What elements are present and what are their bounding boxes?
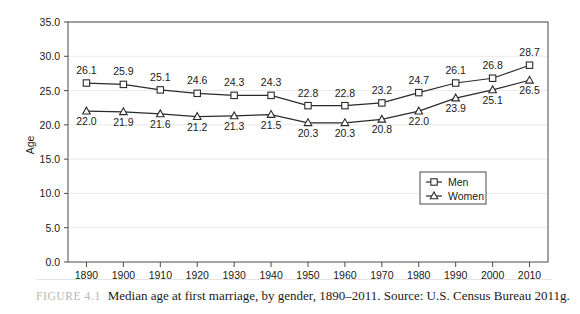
y-tick-label: 5.0 [45, 222, 60, 234]
data-point-label: 20.3 [335, 127, 356, 139]
data-point-label: 22.0 [76, 115, 97, 127]
data-point-label: 25.9 [113, 65, 134, 77]
y-axis-title: Age [24, 136, 36, 155]
figure-container: 0.05.010.015.020.025.030.035.0Age1890190… [0, 0, 580, 314]
plot-frame [68, 22, 548, 262]
legend-marker-square-icon [431, 179, 437, 185]
data-point-marker [452, 80, 458, 86]
y-tick-label: 15.0 [40, 153, 61, 165]
data-point-marker [268, 92, 274, 98]
y-tick-label: 20.0 [40, 119, 61, 131]
legend-label: Women [448, 190, 484, 202]
data-point-label: 24.3 [261, 76, 282, 88]
data-point-marker [489, 75, 495, 81]
data-point-label: 24.6 [187, 74, 208, 86]
y-tick-label: 35.0 [40, 16, 61, 28]
data-point-label: 22.0 [409, 115, 430, 127]
data-point-label: 23.2 [372, 84, 393, 96]
data-point-label: 21.5 [261, 119, 282, 131]
figure-label: FIGURE 4.1 [36, 290, 101, 302]
figure-caption: FIGURE 4.1 Median age at first marriage,… [36, 288, 552, 304]
data-point-label: 25.1 [482, 94, 503, 106]
data-point-marker [416, 89, 422, 95]
y-axis: 0.05.010.015.020.025.030.035.0 [40, 16, 68, 268]
data-point-label: 26.5 [519, 84, 540, 96]
data-point-label: 20.8 [372, 123, 393, 135]
data-point-marker [526, 76, 534, 83]
data-point-label: 25.1 [150, 71, 171, 83]
data-point-marker [342, 102, 348, 108]
legend-label: Men [448, 176, 469, 188]
figure-caption-text: Median age at first marriage, by gender,… [108, 288, 570, 304]
data-point-label: 24.3 [224, 76, 245, 88]
y-tick-label: 0.0 [45, 256, 60, 268]
data-point-marker [83, 107, 91, 114]
data-point-marker [526, 62, 532, 68]
data-point-label: 21.2 [187, 121, 208, 133]
data-point-marker [231, 92, 237, 98]
data-point-marker [267, 111, 275, 118]
data-point-label: 28.7 [519, 46, 540, 58]
y-tick-label: 30.0 [40, 50, 61, 62]
data-point-label: 24.7 [409, 74, 430, 86]
data-point-label: 26.8 [482, 59, 503, 71]
data-point-marker [379, 100, 385, 106]
series-men: 26.125.925.124.624.324.322.822.823.224.7… [76, 46, 540, 109]
legend: MenWomen [420, 172, 486, 204]
data-point-label: 23.9 [445, 102, 466, 114]
data-point-label: 22.8 [298, 87, 319, 99]
caption-separator [36, 279, 552, 280]
data-point-label: 21.6 [150, 118, 171, 130]
y-tick-label: 25.0 [40, 85, 61, 97]
median-age-line-chart: 0.05.010.015.020.025.030.035.0Age1890190… [0, 0, 580, 314]
data-point-marker [305, 102, 311, 108]
data-point-label: 26.1 [76, 64, 97, 76]
data-point-marker [120, 81, 126, 87]
data-point-label: 22.8 [335, 87, 356, 99]
data-point-marker [157, 87, 163, 93]
data-point-label: 21.3 [224, 120, 245, 132]
data-point-label: 20.3 [298, 127, 319, 139]
y-tick-label: 10.0 [40, 187, 61, 199]
data-point-marker [194, 90, 200, 96]
data-point-label: 21.9 [113, 116, 134, 128]
data-point-marker [83, 80, 89, 86]
data-point-label: 26.1 [445, 64, 466, 76]
